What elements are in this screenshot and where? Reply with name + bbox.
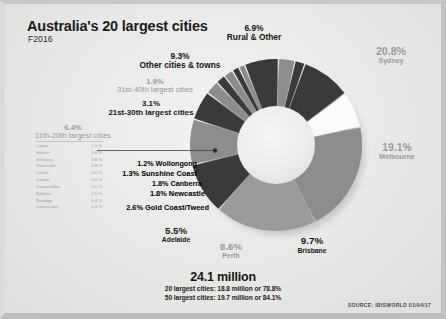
city-list-item: Logan1.1 % xyxy=(36,143,102,150)
city-list-item-name: Launceston xyxy=(36,204,59,211)
leader-line xyxy=(97,147,222,154)
city-list-item-name: Geelong xyxy=(36,157,53,164)
city-list-item-value: 0.8 % xyxy=(91,150,102,157)
label-sydney: 20.8% Sydney xyxy=(353,46,429,65)
label-21-30-largest-cities: 3.1% 21st-30th largest cities xyxy=(77,100,225,117)
label-melbourne: 19.1% Melbourne xyxy=(359,142,435,161)
city-list-item: Hobart0.8 % xyxy=(36,150,102,157)
city-list-item-name: Hobart xyxy=(36,150,49,157)
label-sunshine-coast: 1.3% Sunshine Coast xyxy=(83,170,197,178)
total-population: 24.1 million xyxy=(5,270,441,284)
label-canberra: 1.8% Canberra xyxy=(89,180,202,188)
city-list-item-value: 1.1 % xyxy=(91,143,102,150)
donut-hole xyxy=(237,106,315,184)
label-11-20-largest-cities: 6.4% 11th-20th largest cities xyxy=(11,124,135,140)
label-other-cities-towns: 9.3% Other cities & towns xyxy=(115,52,245,70)
infographic-frame: Australia's 20 largest cities F2016 6.9%… xyxy=(0,0,446,319)
city-list-item-name: Ballarat xyxy=(36,191,51,198)
city-list-item-name: Logan xyxy=(36,143,48,150)
city-list-item-name: Darwin xyxy=(36,177,50,184)
city-list-item-name: Toowoomba xyxy=(36,184,60,191)
total-20-largest: 20 largest cities: 18.8 million or 78.8% xyxy=(5,285,441,292)
source-note: SOURCE: IBISWORLD 01/04/17 xyxy=(348,302,431,308)
city-list-item-name: Cairns xyxy=(36,170,49,177)
page-title: Australia's 20 largest cities xyxy=(27,18,208,34)
label-perth: 8.6% Perth xyxy=(199,242,263,260)
label-31-40-largest-cities: 1.9% 31st-40th largest cities xyxy=(85,78,225,94)
page-subtitle: F2016 xyxy=(28,34,53,44)
city-list-item-name: Bendigo xyxy=(36,198,52,205)
infographic-canvas: Australia's 20 largest cities F2016 6.9%… xyxy=(5,4,441,313)
city-list-item-name: Townsville xyxy=(36,163,56,170)
label-newcastle: 1.8% Newcastle xyxy=(89,190,205,198)
label-rural-other: 6.9% Rural & Other xyxy=(195,24,313,42)
label-brisbane: 9.7% Brisbane xyxy=(277,236,347,254)
label-gold-coast-tweed: 2.6% Gold Coast/Tweed xyxy=(77,204,209,212)
total-50-largest: 50 largest cities: 19.7 million or 84.1% xyxy=(5,294,441,301)
city-list-rule xyxy=(35,141,103,142)
label-wollongong: 1.2% Wollongong xyxy=(85,160,197,168)
